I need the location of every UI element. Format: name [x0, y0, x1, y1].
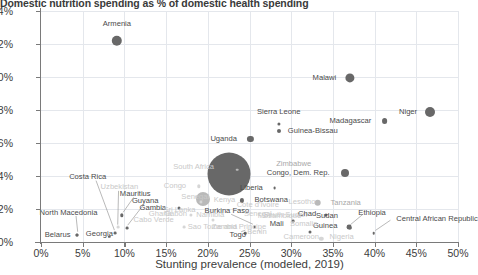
point-label: Mali: [270, 220, 284, 228]
bubble-costa-rica[interactable]: [114, 232, 117, 235]
point-label: Nigeria: [330, 233, 354, 241]
leader-line: [375, 220, 390, 230]
point-label: North Macedonia: [40, 209, 98, 217]
bubble-congo-dem-rep[interactable]: [341, 169, 349, 177]
point-label: Mozambique: [258, 213, 301, 221]
y-tick-label: 8%: [0, 104, 13, 116]
leader-line: [118, 191, 119, 225]
point-label: Senegal: [181, 193, 209, 201]
bubble-uzbekistan[interactable]: [116, 226, 119, 229]
point-label: Central African Republic: [396, 215, 477, 223]
y-tick: [36, 143, 41, 144]
leader-line: [76, 216, 78, 232]
y-tick-label: 14%: [0, 5, 13, 17]
y-tick-label: 12%: [0, 38, 13, 50]
y-tick: [36, 11, 41, 12]
bubble-liberia[interactable]: [273, 187, 276, 190]
bubble-central-african-republic[interactable]: [372, 232, 375, 235]
x-axis-line: [35, 242, 459, 243]
gridline-vertical: [458, 11, 459, 242]
point-label: Sierra Leone: [257, 108, 300, 116]
point-label: Tanzania: [330, 199, 360, 207]
point-label: Namibia: [196, 211, 224, 219]
y-tick: [36, 176, 41, 177]
y-tick-label: 6%: [0, 137, 13, 149]
bubble-madagascar[interactable]: [382, 118, 388, 124]
point-label: Guinea-Bissau: [288, 127, 338, 135]
y-tick-label: 0%: [0, 236, 13, 248]
bubble-guinea-bissau[interactable]: [277, 129, 281, 133]
point-label: Costa Rica: [69, 173, 106, 181]
bubble-niger[interactable]: [425, 107, 435, 117]
point-label: Niger: [399, 109, 417, 117]
y-tick: [36, 209, 41, 210]
y-tick: [36, 44, 41, 45]
point-label: Uganda: [210, 135, 237, 143]
point-label: Armenia: [103, 20, 131, 28]
bubble-chart: Domestic nutrition spending as % of dome…: [0, 0, 478, 275]
point-label: Zambia: [212, 223, 237, 231]
y-tick-label: 10%: [0, 71, 13, 83]
point-label: Somalia: [290, 220, 317, 228]
y-tick: [36, 77, 41, 78]
bubble-belarus[interactable]: [75, 234, 78, 237]
bubble-ethiopia[interactable]: [349, 226, 352, 229]
chart-title: Domestic nutrition spending as % of dome…: [0, 0, 478, 9]
point-label: Liberia: [240, 185, 263, 193]
point-label: Belarus: [45, 231, 71, 239]
bubble-sao-tome-and-principe[interactable]: [183, 225, 186, 228]
point-label: Georgia: [86, 230, 113, 238]
point-label: Benin: [247, 228, 266, 236]
point-label: Sudan: [316, 212, 338, 220]
point-label: Congo: [164, 182, 186, 190]
point-label: Ghana: [149, 210, 172, 218]
point-label: Ethiopia: [358, 209, 385, 217]
point-label: Malawi: [313, 74, 337, 82]
point-label: South Africa: [173, 164, 214, 172]
point-label: Congo, Dem. Rep.: [267, 169, 330, 177]
bubble-zimbabwe[interactable]: [236, 168, 239, 171]
y-tick: [36, 110, 41, 111]
point-label: Madagascar: [329, 117, 371, 125]
point-label: Cote d'Ivoire: [237, 202, 279, 210]
bubble-guyana[interactable]: [125, 227, 128, 230]
point-label: Kenya: [214, 196, 236, 204]
plot-area: ArmeniaMalawiNigerMadagascarSierra Leone…: [41, 11, 458, 242]
point-label: Togo: [230, 231, 246, 239]
y-tick-label: 2%: [0, 203, 13, 215]
point-label: Lesotho: [289, 198, 316, 206]
point-label: Cameroon: [283, 233, 318, 241]
point-label: Zimbabwe: [276, 160, 311, 168]
bubble-tanzania[interactable]: [315, 199, 322, 206]
y-tick-label: 4%: [0, 170, 13, 182]
x-axis-title: Stunting prevalence (modeled, 2019): [41, 258, 458, 270]
